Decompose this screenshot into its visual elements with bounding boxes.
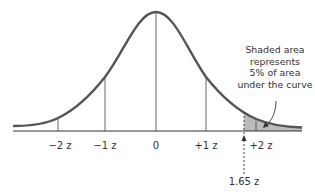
annotation-line-1: Shaded area (236, 44, 314, 56)
critical-value-arrowhead (242, 135, 247, 141)
shaded-area-annotation: Shaded area represents 5% of area under … (236, 44, 314, 90)
annotation-line-3: 5% of area (236, 67, 314, 79)
tick-label-plus1: +1 z (194, 140, 217, 151)
tick-label-plus2: +2 z (249, 140, 272, 151)
critical-value-label: 1.65 z (229, 176, 260, 187)
tick-label-zero: 0 (153, 140, 159, 151)
tick-label-minus2: −2 z (48, 140, 71, 151)
normal-curve-diagram (0, 0, 315, 196)
annotation-line-4: under the curve (236, 79, 314, 91)
tick-label-minus1: −1 z (93, 140, 116, 151)
annotation-line-2: represents (236, 56, 314, 68)
